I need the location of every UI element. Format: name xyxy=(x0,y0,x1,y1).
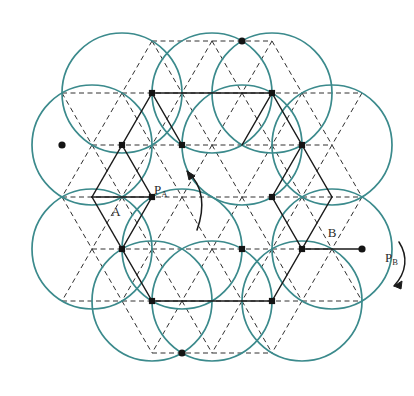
dashed-lattice-edge xyxy=(182,249,212,301)
dashed-lattice-edge xyxy=(242,301,272,353)
lattice-node-round xyxy=(358,245,365,252)
lattice-node-round xyxy=(178,349,185,356)
dashed-lattice-edge xyxy=(332,93,362,145)
lattice-node-square xyxy=(299,142,305,148)
dashed-lattice-edge xyxy=(152,249,182,301)
dashed-lattice-edge xyxy=(62,249,92,301)
dashed-lattice-edge xyxy=(122,301,152,353)
lattice-node-square xyxy=(119,246,125,252)
dashed-lattice-edge xyxy=(302,249,332,301)
lattice-node-square xyxy=(119,142,125,148)
lattice-circle-packing-diagram: PAPBAB xyxy=(0,0,414,396)
label-p-a: PA xyxy=(154,182,168,199)
lattice-node-square xyxy=(269,298,275,304)
dashed-lattice-edge xyxy=(92,249,122,301)
dashed-lattice-edge xyxy=(92,93,122,145)
lattice-node-square xyxy=(269,194,275,200)
label-b: B xyxy=(328,225,337,240)
lattice-node-round xyxy=(58,141,65,148)
dashed-lattice-edge xyxy=(212,301,242,353)
lattice-node-square xyxy=(179,142,185,148)
dashed-lattice-edge xyxy=(182,93,212,145)
dashed-lattice-edge xyxy=(272,41,302,93)
dashed-lattice-edge xyxy=(212,249,242,301)
label-a: A xyxy=(111,204,121,219)
lattice-node-square xyxy=(269,90,275,96)
dashed-lattice-edge xyxy=(242,249,272,301)
dashed-lattice-edge xyxy=(212,93,242,145)
dashed-lattice-edge xyxy=(332,249,362,301)
dashed-lattice-edge xyxy=(122,41,152,93)
dashed-lattice-edge xyxy=(62,93,92,145)
dashed-lattice-edge xyxy=(272,301,302,353)
label-group: PAPBAB xyxy=(111,182,398,267)
lattice-node-square xyxy=(299,246,305,252)
dashed-lattice-edge xyxy=(182,41,212,93)
figure-container: PAPBAB xyxy=(0,0,414,396)
lattice-node-square xyxy=(149,90,155,96)
dashed-lattice-edge xyxy=(152,41,182,93)
lattice-node-square xyxy=(239,246,245,252)
lattice-node-square xyxy=(149,298,155,304)
dashed-lattice-edge xyxy=(302,93,332,145)
lattice-node-round xyxy=(238,37,245,44)
label-p-b: PB xyxy=(385,250,398,267)
